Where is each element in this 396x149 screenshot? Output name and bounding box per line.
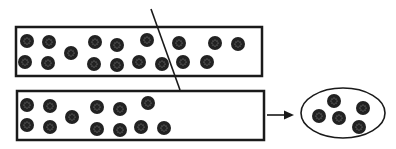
particle-dot — [352, 120, 366, 134]
particle-dot — [157, 121, 171, 135]
particle-dot — [332, 111, 346, 125]
particle-dot — [172, 36, 186, 50]
particle-dot — [132, 55, 146, 69]
particle-dot — [43, 99, 57, 113]
particle-dot — [134, 120, 148, 134]
cut-line — [151, 9, 180, 90]
particle-dot — [20, 118, 34, 132]
particle-dot — [356, 101, 370, 115]
particle-dot — [20, 34, 34, 48]
particle-dot — [208, 36, 222, 50]
particle-dot — [327, 94, 341, 108]
particle-dot — [65, 110, 79, 124]
particle-dot — [41, 56, 55, 70]
particle-dot — [90, 122, 104, 136]
particle-dot — [110, 58, 124, 72]
particle-dot — [18, 55, 32, 69]
particle-dot — [110, 38, 124, 52]
particle-dot — [87, 57, 101, 71]
diagram-svg — [0, 0, 396, 149]
particle-dot — [88, 35, 102, 49]
particle-dot — [200, 55, 214, 69]
arrow-head — [284, 111, 294, 120]
arrow-right-icon — [267, 111, 294, 120]
particle-dot — [20, 98, 34, 112]
diagram-canvas — [0, 0, 396, 149]
particle-dot — [43, 120, 57, 134]
particle-dot — [155, 57, 169, 71]
particle-dot — [140, 33, 154, 47]
particle-dot — [113, 102, 127, 116]
particle-dot — [141, 96, 155, 110]
top-strip-particles — [18, 33, 245, 72]
particle-dot — [312, 109, 326, 123]
particle-dot — [231, 37, 245, 51]
particle-dot — [113, 123, 127, 137]
bottom-strip-particles — [20, 96, 171, 137]
particle-dot — [64, 46, 78, 60]
particle-dot — [176, 55, 190, 69]
particle-dot — [42, 35, 56, 49]
collected-particles — [312, 94, 370, 134]
particle-dot — [90, 100, 104, 114]
